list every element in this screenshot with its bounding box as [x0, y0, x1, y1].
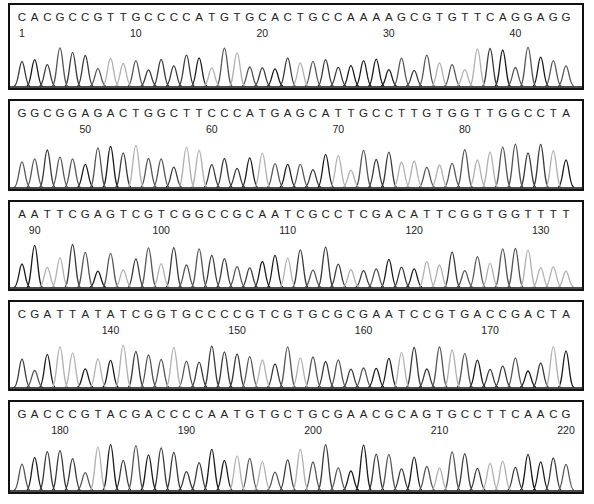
base-call: G: [435, 308, 444, 320]
trace-C: [14, 346, 548, 387]
base-call: C: [182, 408, 190, 420]
base-call: C: [473, 408, 481, 420]
base-call: C: [43, 11, 51, 23]
base-call: T: [297, 308, 304, 320]
base-call: G: [549, 11, 558, 23]
base-call: A: [94, 208, 102, 220]
base-call: T: [259, 408, 266, 420]
base-call: C: [334, 11, 342, 23]
position-tick: 70: [332, 123, 344, 135]
base-call: C: [461, 408, 469, 420]
base-sequence: GACCCGTACGACCCCAATGTGCTGCGAACGCAGTGCCTTC…: [10, 408, 582, 422]
base-call: C: [233, 308, 241, 320]
base-call: A: [221, 408, 229, 420]
base-call: A: [43, 308, 51, 320]
base-call: G: [68, 107, 77, 119]
position-tick: 130: [532, 224, 550, 236]
base-call: T: [398, 308, 405, 320]
base-call: A: [284, 107, 292, 119]
trace-G: [77, 248, 523, 287]
base-call: C: [43, 107, 51, 119]
position-tick: 80: [459, 123, 471, 135]
base-call: G: [245, 11, 254, 23]
base-call: T: [550, 208, 557, 220]
position-tick: 40: [510, 27, 522, 39]
position-tick: 150: [228, 324, 246, 336]
base-call: G: [359, 107, 368, 119]
position-tick: 220: [557, 424, 575, 436]
base-call: A: [18, 208, 26, 220]
base-call: C: [537, 308, 545, 320]
base-call: T: [347, 208, 354, 220]
base-call: G: [93, 107, 102, 119]
base-call: G: [81, 208, 90, 220]
base-call: C: [195, 308, 203, 320]
base-call: T: [487, 107, 494, 119]
base-call: A: [31, 408, 39, 420]
base-call: G: [18, 107, 27, 119]
base-call: C: [549, 408, 557, 420]
base-call: A: [562, 107, 570, 119]
base-call: T: [550, 107, 557, 119]
base-call: A: [107, 308, 115, 320]
base-call: G: [359, 308, 368, 320]
base-call: A: [499, 11, 507, 23]
base-call: T: [234, 11, 241, 23]
trace-C: [65, 245, 460, 288]
base-call: T: [499, 408, 506, 420]
base-call: A: [271, 208, 279, 220]
base-call: T: [208, 11, 215, 23]
base-call: C: [524, 107, 532, 119]
base-call: A: [537, 408, 545, 420]
base-call: G: [308, 308, 317, 320]
trace-T: [103, 49, 486, 86]
base-sequence: CACGCCGTTGCCCCATGTGCACTGCCAAAAGCGTGTTCAG…: [10, 11, 582, 25]
base-call: C: [410, 308, 418, 320]
base-call: T: [423, 208, 430, 220]
base-call: G: [220, 11, 229, 23]
base-call: T: [94, 408, 101, 420]
base-call: G: [245, 308, 254, 320]
base-call: C: [246, 208, 254, 220]
base-call: C: [81, 11, 89, 23]
base-call: C: [68, 208, 76, 220]
base-call: A: [271, 11, 279, 23]
trace-G: [14, 144, 523, 187]
base-call: A: [246, 107, 254, 119]
base-call: C: [144, 11, 152, 23]
base-call: G: [511, 11, 520, 23]
base-call: C: [359, 208, 367, 220]
base-call: G: [144, 308, 153, 320]
base-call: T: [183, 107, 190, 119]
base-call: G: [460, 308, 469, 320]
position-tick: 60: [206, 123, 218, 135]
base-call: A: [524, 408, 532, 420]
base-call: G: [334, 408, 343, 420]
base-call: G: [448, 107, 457, 119]
base-call: G: [448, 11, 457, 23]
base-call: A: [372, 308, 380, 320]
base-call: G: [195, 208, 204, 220]
base-call: A: [360, 11, 368, 23]
base-call: G: [308, 408, 317, 420]
base-call: G: [93, 11, 102, 23]
base-call: G: [422, 408, 431, 420]
base-call: C: [68, 408, 76, 420]
base-call: T: [487, 408, 494, 420]
base-call: G: [182, 308, 191, 320]
base-sequence: GGCGGAGACTGGCTTCCCATGAGCATTGCCTTGTGGTTGG…: [10, 107, 582, 121]
chromatogram-row-4: CGATTATATCGGTGCCCCGTCGTGCGCGAATCCGTGACCG…: [8, 300, 584, 391]
position-tick: 90: [29, 224, 41, 236]
base-call: T: [436, 208, 443, 220]
base-call: C: [258, 11, 266, 23]
base-call: A: [410, 408, 418, 420]
base-call: C: [347, 308, 355, 320]
base-call: G: [422, 107, 431, 119]
base-call: C: [271, 308, 279, 320]
base-call: T: [234, 408, 241, 420]
trace-T: [52, 345, 561, 387]
base-call: A: [31, 11, 39, 23]
base-call: C: [334, 208, 342, 220]
trace-C: [40, 445, 562, 490]
base-call: T: [461, 11, 468, 23]
